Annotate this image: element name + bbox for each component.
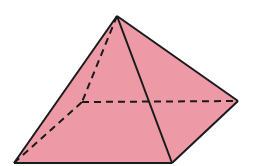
- pyramid-figure: Square pyramid: [0, 0, 254, 166]
- pyramid-diagram: [0, 0, 254, 166]
